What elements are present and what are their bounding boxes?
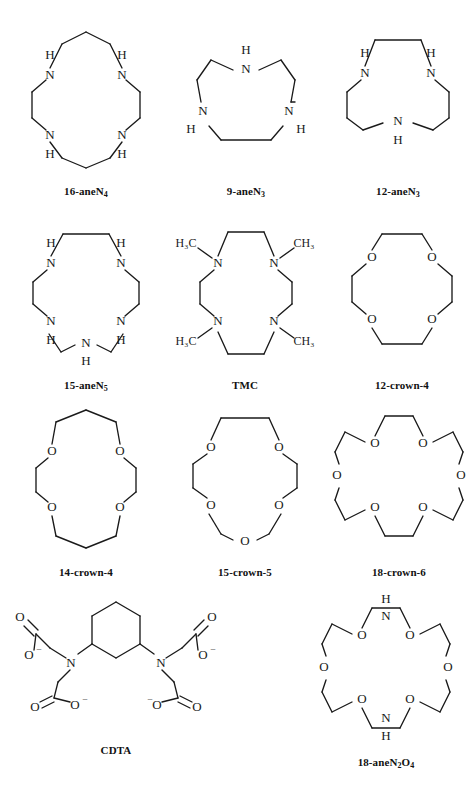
- structure-drawing-9-aneN3: H N N H N H: [191, 18, 301, 168]
- atom-label-O: O: [332, 467, 341, 482]
- structure-cell-15-crown-5: O O O O O 15-crown-5: [172, 400, 318, 578]
- atom-label-N: N: [269, 313, 279, 328]
- atom-label-O-minus: O: [198, 647, 207, 662]
- atom-label-O: O: [47, 443, 56, 458]
- chemical-structures-figure: H N H N N H N H 16-aneN4 H N N: [0, 0, 472, 798]
- atom-label-H: H: [426, 45, 435, 60]
- atom-label-H: H: [116, 235, 125, 250]
- structure-cell-14-crown-4: O O O O 14-crown-4: [16, 400, 156, 578]
- structure-cell-18-aneN2O4: H N O O O O O O N H 18-aneN2O4: [300, 592, 472, 770]
- atom-label-O-minus: O: [152, 697, 161, 712]
- atom-label-O: O: [443, 659, 452, 674]
- charge-label-minus: –: [147, 693, 153, 703]
- atom-label-N: N: [381, 710, 391, 725]
- atom-label-O: O: [15, 609, 24, 624]
- atom-label-O: O: [427, 249, 436, 264]
- atom-label-O: O: [418, 499, 427, 514]
- atom-label-H: H: [45, 146, 54, 161]
- atom-label-O: O: [367, 249, 376, 264]
- atom-label-N: N: [46, 313, 56, 328]
- atom-label-N: N: [426, 65, 436, 80]
- atom-label-O: O: [115, 499, 124, 514]
- atom-label-O: O: [370, 435, 379, 450]
- atom-label-O-minus: O: [70, 697, 79, 712]
- atom-label-N: N: [213, 255, 223, 270]
- atom-label-N: N: [46, 255, 56, 270]
- atom-label-O: O: [274, 497, 283, 512]
- structure-cell-18-crown-6: O O O O O O 18-crown-6: [328, 400, 470, 578]
- atom-label-O-minus: O: [24, 647, 33, 662]
- structure-cell-16-aneN4: H N H N N H N H 16-aneN4: [16, 18, 156, 199]
- structure-cell-15-aneN5: H N H N N H N H N H 15-aneN5: [16, 212, 156, 393]
- structure-caption-15-crown-5: 15-crown-5: [218, 566, 272, 578]
- atom-label-N: N: [81, 335, 91, 350]
- atom-label-N: N: [116, 255, 126, 270]
- atom-label-N: N: [66, 655, 76, 670]
- atom-label-O: O: [456, 467, 465, 482]
- structure-caption-TMC: TMC: [232, 379, 258, 391]
- atom-label-H: H: [117, 47, 126, 62]
- structure-cell-9-aneN3: H N N H N H 9-aneN3: [178, 18, 314, 199]
- structure-drawing-16-aneN4: H N H N N H N H: [22, 18, 150, 168]
- atom-label-H: H: [393, 132, 402, 147]
- atom-label-H: H: [45, 47, 54, 62]
- atom-label-O: O: [206, 497, 215, 512]
- atom-label-O: O: [427, 311, 436, 326]
- structure-drawing-15-crown-5: O O O O O: [179, 400, 311, 552]
- atom-label-O: O: [370, 499, 379, 514]
- atom-label-N: N: [156, 655, 166, 670]
- structure-drawing-12-crown-4: O O O O: [342, 212, 462, 362]
- atom-label-N: N: [117, 67, 127, 82]
- atom-label-N: N: [198, 103, 208, 118]
- structure-caption-14-crown-4: 14-crown-4: [59, 566, 113, 578]
- structure-drawing-TMC: N N N N H₃C CH₃ H₃C CH₃: [172, 212, 318, 364]
- charge-label-minus: –: [210, 643, 216, 653]
- structure-caption-18-aneN2O4: 18-aneN2O4: [358, 756, 415, 770]
- atom-label-N: N: [269, 255, 279, 270]
- atom-label-H: H: [241, 42, 250, 57]
- structure-drawing-15-aneN5: H N H N N H N H N H: [21, 212, 151, 364]
- atom-label-O: O: [206, 439, 215, 454]
- charge-label-minus: –: [82, 693, 88, 703]
- structure-caption-18-crown-6: 18-crown-6: [372, 566, 426, 578]
- atom-label-N: N: [117, 127, 127, 142]
- atom-label-O: O: [192, 699, 201, 714]
- structure-caption-12-aneN3: 12-aneN3: [376, 185, 420, 199]
- atom-label-H: H: [46, 235, 55, 250]
- atom-label-O: O: [418, 435, 427, 450]
- structure-caption-15-aneN5: 15-aneN5: [64, 379, 108, 393]
- atom-label-O: O: [405, 627, 414, 642]
- atom-label-H: H: [81, 353, 90, 368]
- atom-label-O: O: [47, 499, 56, 514]
- atom-label-N: N: [213, 313, 223, 328]
- structure-cell-12-crown-4: O O O O 12-crown-4: [334, 212, 470, 391]
- atom-label-H: H: [296, 121, 305, 136]
- atom-label-N: N: [45, 67, 55, 82]
- atom-label-O: O: [405, 691, 414, 706]
- atom-label-H: H: [116, 332, 125, 347]
- atom-label-O: O: [240, 533, 249, 548]
- atom-label-N: N: [393, 113, 403, 128]
- structure-drawing-CDTA: N N O O – O O – O O – O O –: [8, 586, 224, 734]
- atom-label-O: O: [367, 311, 376, 326]
- structure-cell-CDTA: N N O O – O O – O O – O O – CDTA: [0, 586, 232, 756]
- structure-caption-12-crown-4: 12-crown-4: [375, 379, 429, 391]
- atom-label-O: O: [319, 659, 328, 674]
- atom-label-O: O: [115, 443, 124, 458]
- atom-label-H: H: [381, 728, 390, 743]
- charge-label-minus: –: [36, 643, 42, 653]
- methyl-label-H3C: H₃C: [176, 236, 197, 250]
- structure-cell-12-aneN3: H N H N N H 12-aneN3: [330, 18, 466, 199]
- atom-label-N: N: [116, 313, 126, 328]
- structure-caption-CDTA: CDTA: [101, 744, 132, 756]
- atom-label-H: H: [46, 332, 55, 347]
- atom-label-H: H: [360, 45, 369, 60]
- structure-caption-9-aneN3: 9-aneN3: [227, 185, 265, 199]
- structure-caption-16-aneN4: 16-aneN4: [64, 185, 108, 199]
- methyl-label-CH3: CH₃: [294, 334, 315, 348]
- atom-label-O: O: [357, 691, 366, 706]
- methyl-label-CH3: CH₃: [294, 236, 315, 250]
- atom-label-N: N: [284, 103, 294, 118]
- atom-label-N: N: [241, 61, 251, 76]
- atom-label-H: H: [381, 591, 390, 606]
